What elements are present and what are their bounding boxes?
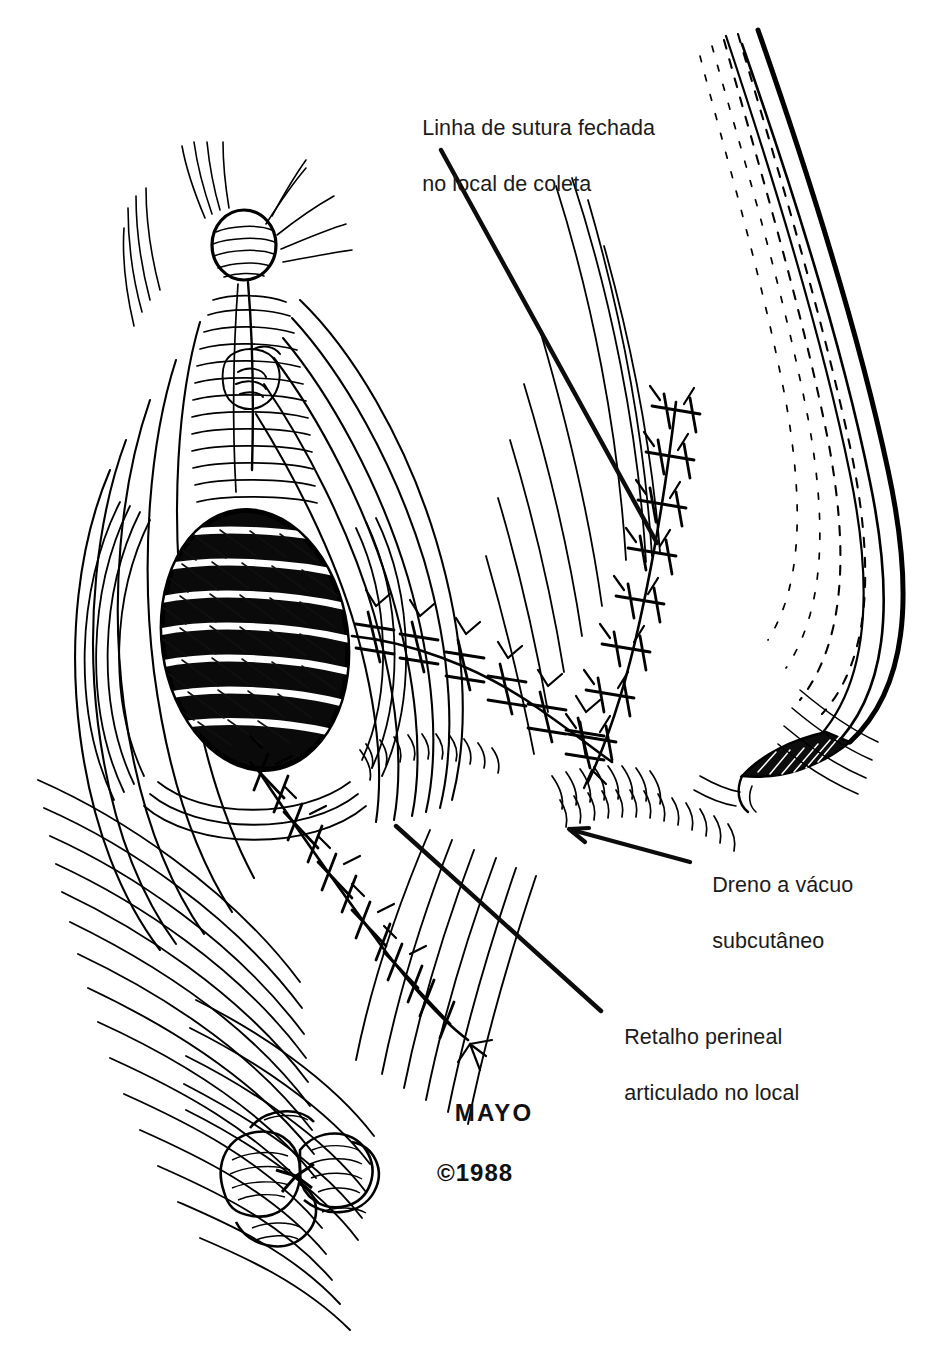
label-harvest-site: Linha de sutura fechada no local de cole… xyxy=(410,86,655,198)
label-harvest-site-line1: Linha de sutura fechada xyxy=(422,116,655,140)
mayo-wordmark: MAYO xyxy=(455,1099,534,1126)
mayo-copyright: MAYO ©1988 xyxy=(437,1068,533,1218)
label-suction-drain-line1: Dreno a vácuo xyxy=(712,873,853,897)
label-perineal-flap-line1: Retalho perineal xyxy=(624,1025,782,1049)
copyright-year: ©1988 xyxy=(437,1158,533,1188)
label-perineal-flap-line2: articulado no local xyxy=(624,1081,799,1105)
label-harvest-site-line2: no local de coleta xyxy=(422,172,591,196)
label-perineal-flap: Retalho perineal articulado no local xyxy=(612,995,799,1107)
label-suction-drain: Dreno a vácuo subcutâneo xyxy=(700,843,853,955)
label-suction-drain-line2: subcutâneo xyxy=(712,929,824,953)
